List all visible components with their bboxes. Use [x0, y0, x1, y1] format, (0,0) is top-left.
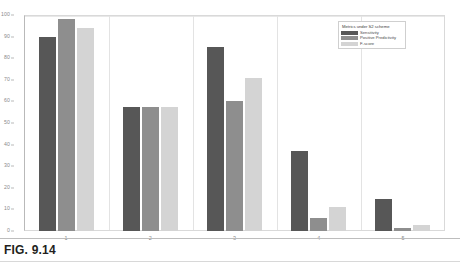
y-axis-tick-mark	[11, 15, 14, 16]
bar	[375, 199, 392, 231]
bar	[161, 107, 178, 231]
y-axis-tick-label: 70	[4, 77, 10, 82]
legend-entries: SensitivityPositive PredictivityF-score	[341, 30, 403, 46]
y-axis-tick-mark	[11, 101, 14, 102]
figure-caption: FIG. 9.14	[4, 244, 56, 256]
bar	[39, 37, 56, 231]
y-axis-tick-mark	[11, 79, 14, 80]
legend-label: F-score	[360, 42, 374, 46]
y-axis-tick-mark	[11, 144, 14, 145]
y-axis-tick-label: 50	[4, 120, 10, 125]
y-axis-tick-mark	[11, 187, 14, 188]
y-axis-tick-label: 30	[4, 164, 10, 169]
bar-chart: 0102030405060708090100 12345 Metrics und…	[0, 0, 460, 236]
y-axis-tick-label: 40	[4, 142, 10, 147]
y-axis-tick-label: 10	[4, 207, 10, 212]
bar	[310, 218, 327, 231]
caption-divider-top	[0, 238, 460, 239]
y-axis-tick-mark	[11, 36, 14, 37]
bar	[291, 151, 308, 231]
bar	[226, 101, 243, 231]
legend-entry: F-score	[341, 41, 403, 46]
bar	[77, 28, 94, 231]
y-axis-tick-label: 100	[1, 12, 10, 17]
legend-label: Positive Predictivity	[360, 36, 396, 40]
legend-entry: Positive Predictivity	[341, 36, 403, 41]
y-axis-tick-label: 80	[4, 56, 10, 61]
legend-swatch	[341, 42, 358, 46]
legend-swatch	[341, 36, 358, 40]
y-axis-tick-label: 90	[4, 34, 10, 39]
y-axis-tick-label: 20	[4, 185, 10, 190]
y-axis-tick-mark	[11, 209, 14, 210]
y-axis-tick-mark	[11, 58, 14, 59]
bar	[142, 107, 159, 231]
y-axis: 0102030405060708090100	[0, 0, 25, 236]
y-axis-tick-mark	[11, 231, 14, 232]
bar	[245, 78, 262, 231]
y-axis-tick-label: 0	[7, 228, 10, 233]
chart-legend: Metrics under S2 scheme SensitivityPosit…	[338, 21, 406, 49]
legend-title: Metrics under S2 scheme	[341, 23, 403, 30]
y-axis-tick-label: 60	[4, 99, 10, 104]
y-axis-tick-mark	[11, 166, 14, 167]
bar	[123, 107, 140, 231]
caption-divider-bottom	[0, 261, 460, 262]
y-axis-tick-mark	[11, 123, 14, 124]
bar	[58, 19, 75, 231]
figure-container: 0102030405060708090100 12345 Metrics und…	[0, 0, 460, 265]
bar	[329, 207, 346, 231]
legend-swatch	[341, 31, 358, 35]
bar	[207, 47, 224, 231]
